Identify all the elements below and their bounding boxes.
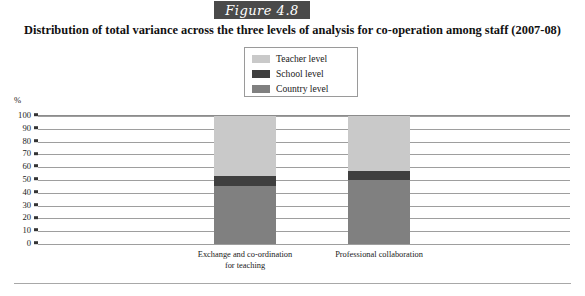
gridline xyxy=(38,180,570,181)
chart-legend: Teacher level School level Country level xyxy=(244,47,358,97)
y-axis: 1009080706050403020100 xyxy=(0,115,38,244)
x-axis-label-1: Exchange and co-ordinationfor teaching xyxy=(175,250,315,271)
gridline xyxy=(38,154,570,155)
y-axis-tick-label: 30 xyxy=(0,200,38,209)
bar-2 xyxy=(348,116,410,244)
figure-title: Distribution of total variance across th… xyxy=(0,23,585,38)
x-axis-label-2: Professional collaboration xyxy=(309,250,449,261)
legend-swatch-school-level xyxy=(252,70,270,78)
gridline xyxy=(38,218,570,219)
legend-item-school-level: School level xyxy=(252,67,357,80)
y-axis-tick-label: 0 xyxy=(0,239,38,248)
gridline xyxy=(38,116,570,117)
footer-divider xyxy=(14,283,571,284)
y-axis-tick-label: 70 xyxy=(0,149,38,158)
legend-label-teacher-level: Teacher level xyxy=(276,54,327,64)
legend-swatch-country-level xyxy=(252,85,270,93)
figure-page: Figure 4.8 Distribution of total varianc… xyxy=(0,0,585,296)
legend-label-school-level: School level xyxy=(276,69,324,79)
y-axis-tick-label: 90 xyxy=(0,124,38,133)
figure-number-tag: Figure 4.8 xyxy=(214,1,310,19)
bar-segment-teacher-level xyxy=(214,116,276,176)
gridline xyxy=(38,193,570,194)
bar-segment-school-level xyxy=(214,176,276,186)
plot-area xyxy=(38,115,570,245)
y-axis-tick-label: 10 xyxy=(0,226,38,235)
legend-label-country-level: Country level xyxy=(276,84,329,94)
gridline xyxy=(38,244,570,245)
y-axis-tick-label: 50 xyxy=(0,175,38,184)
gridline xyxy=(38,206,570,207)
bar-segment-school-level xyxy=(348,171,410,180)
y-axis-tick-label: 20 xyxy=(0,213,38,222)
bar-segment-country-level xyxy=(214,186,276,244)
legend-item-teacher-level: Teacher level xyxy=(252,52,357,65)
y-axis-tick-label: 40 xyxy=(0,188,38,197)
gridline xyxy=(38,129,570,130)
bar-segment-teacher-level xyxy=(348,116,410,171)
y-axis-tick-label: 100 xyxy=(0,111,38,120)
y-axis-tick-label: 60 xyxy=(0,162,38,171)
y-axis-tick-label: 80 xyxy=(0,136,38,145)
gridline xyxy=(38,142,570,143)
legend-item-country-level: Country level xyxy=(252,82,357,95)
gridline xyxy=(38,231,570,232)
bar-1 xyxy=(214,116,276,244)
bar-segment-country-level xyxy=(348,180,410,244)
gridline xyxy=(38,167,570,168)
legend-swatch-teacher-level xyxy=(252,55,270,63)
y-axis-unit-label: % xyxy=(14,95,21,105)
